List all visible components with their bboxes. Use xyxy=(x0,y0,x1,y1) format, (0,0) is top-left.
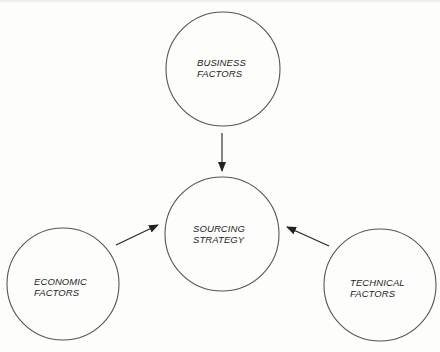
sourcing-strategy-label: SOURCING STRATEGY xyxy=(193,223,245,245)
technical-factors-label: TECHNICAL FACTORS xyxy=(350,277,405,299)
label-line-2: FACTORS xyxy=(34,287,87,298)
label-line-2: STRATEGY xyxy=(193,234,245,245)
label-line-1: TECHNICAL xyxy=(350,277,405,288)
label-line-2: FACTORS xyxy=(197,68,246,79)
economic-factors-label: ECONOMIC FACTORS xyxy=(34,276,87,298)
label-line-1: ECONOMIC xyxy=(34,276,87,287)
label-line-2: FACTORS xyxy=(350,288,405,299)
label-line-1: SOURCING xyxy=(193,223,245,234)
label-line-1: BUSINESS xyxy=(197,57,246,68)
sourcing-strategy-diagram xyxy=(0,0,440,352)
business-factors-label: BUSINESS FACTORS xyxy=(197,57,246,79)
technical-to-sourcing-arrow-icon xyxy=(287,227,329,246)
economic-to-sourcing-arrow-icon xyxy=(116,225,158,245)
